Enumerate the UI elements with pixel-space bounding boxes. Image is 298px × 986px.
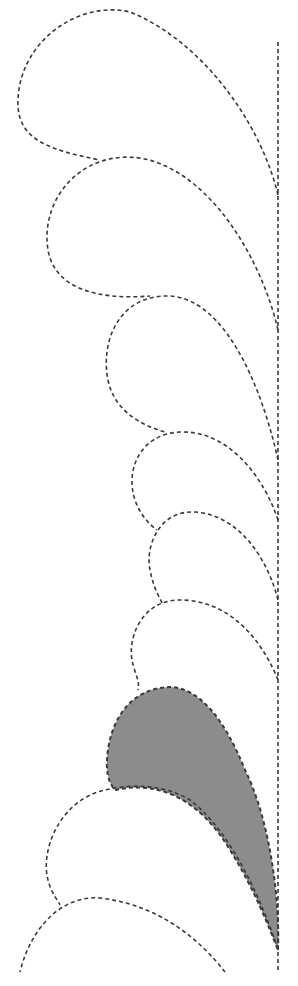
feather-pattern-diagram bbox=[0, 0, 298, 986]
